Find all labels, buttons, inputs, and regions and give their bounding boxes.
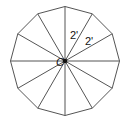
dodecagon-figure: C 2' 2': [0, 0, 123, 120]
dodecagon-diagram: C 2' 2': [0, 0, 123, 120]
center-label: C: [56, 56, 64, 68]
spoke-line: [38, 61, 65, 108]
radius-label-2: 2': [85, 35, 93, 47]
radius-label-1: 2': [70, 29, 78, 41]
spoke-line: [65, 61, 112, 88]
spoke-line: [65, 61, 92, 108]
spoke-line: [38, 14, 65, 61]
